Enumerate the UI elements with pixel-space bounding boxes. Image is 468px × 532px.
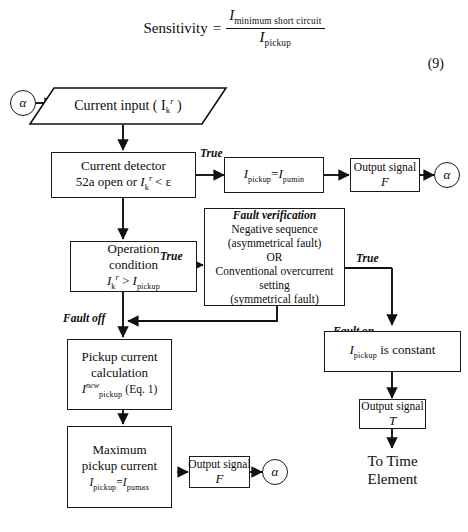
node-pickup-assign-min: Ipickup=Ipumin <box>224 157 324 193</box>
to-time-element-line1: To Time <box>340 452 445 470</box>
maximum-pickup-line1: Maximum <box>92 442 146 458</box>
sensitivity-equation: Sensitivity = Iminimum short circuit Ipi… <box>0 8 468 49</box>
node-output-signal-f-bottom: Output signal F <box>189 456 250 488</box>
fault-verification-line1: Negative sequence <box>231 222 318 236</box>
connector-alpha-output-bottom-label: α <box>272 464 279 480</box>
fault-verification-line5: setting <box>259 278 290 292</box>
fault-verification-title: Fault verification <box>233 208 316 222</box>
output-signal-f-bottom-line2: F <box>216 471 224 487</box>
operation-condition-line1: Operation <box>108 241 160 257</box>
pickup-assign-min-expr: Ipickup=Ipumin <box>244 166 305 184</box>
node-output-signal-f-top: Output signal F <box>350 158 420 192</box>
pickup-calculation-line1: Pickup current <box>81 349 157 365</box>
maximum-pickup-line2: pickup current <box>82 458 157 474</box>
output-signal-f-top-line1: Output signal <box>354 160 416 174</box>
fault-verification-line2: (asymmetrical fault) <box>228 236 322 250</box>
pickup-is-constant-expr: Ipickup is constant <box>350 342 436 360</box>
edge-label-true-detector: True <box>200 147 223 159</box>
output-signal-f-top-line2: F <box>381 174 389 190</box>
output-signal-t-line2: T <box>389 413 396 429</box>
fault-verification-line3: OR <box>267 250 283 264</box>
connector-alpha-input-label: α <box>20 95 27 111</box>
output-signal-f-bottom-line1: Output signal <box>188 457 250 471</box>
edge-label-true-fault-verification: True <box>356 252 379 264</box>
fault-verification-line4: Conventional overcurrent <box>216 264 334 278</box>
maximum-pickup-line3: Ipickup=Ipumax <box>89 474 149 492</box>
flowchart-figure: Sensitivity = Iminimum short circuit Ipi… <box>0 0 468 532</box>
connector-alpha-output-bottom: α <box>262 459 288 485</box>
node-current-input-label: Current input ( Ikr ) <box>74 96 181 115</box>
fault-verification-line6: (symmetrical fault) <box>230 292 318 306</box>
equation-fraction: Iminimum short circuit Ipickup <box>226 8 324 49</box>
pickup-calculation-line3: Inewpickup (Eq. 1) <box>82 381 158 400</box>
operation-condition-line2: condition <box>109 257 158 273</box>
output-signal-t-line1: Output signal <box>361 399 423 413</box>
to-time-element-line2: Element <box>340 470 445 488</box>
equation-number: (9) <box>428 56 444 72</box>
node-output-signal-t: Output signal T <box>359 399 426 429</box>
current-detector-line2: 52a open or Ikr < ε <box>76 174 172 193</box>
equation-numerator: Iminimum short circuit <box>226 8 324 29</box>
node-current-detector: Current detector 52a open or Ikr < ε <box>51 152 196 198</box>
connector-alpha-output-top: α <box>434 162 460 188</box>
node-pickup-is-constant: Ipickup is constant <box>324 331 461 372</box>
operation-condition-line3: Ikr > Ipickup <box>107 273 160 292</box>
edge-label-true-operation: True <box>160 250 183 262</box>
current-detector-line1: Current detector <box>81 158 166 174</box>
node-fault-verification: Fault verification Negative sequence (as… <box>204 208 345 306</box>
connector-alpha-output-top-label: α <box>444 167 451 183</box>
equation-equals-sign: = <box>213 20 221 37</box>
node-to-time-element: To Time Element <box>340 452 445 488</box>
node-maximum-pickup-current: Maximum pickup current Ipickup=Ipumax <box>67 426 172 508</box>
equation-lhs: Sensitivity <box>143 20 207 37</box>
node-pickup-current-calculation: Pickup current calculation Inewpickup (E… <box>67 339 172 410</box>
equation-denominator: Ipickup <box>257 29 295 49</box>
edge-label-fault-off: Fault off <box>63 312 105 324</box>
pickup-calculation-line2: calculation <box>91 365 148 381</box>
node-current-input: Current input ( Ikr ) <box>28 86 228 126</box>
node-operation-condition: Operation condition Ikr > Ipickup <box>70 241 197 292</box>
